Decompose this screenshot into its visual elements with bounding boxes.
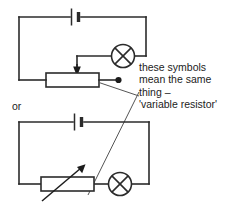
battery-cell-bottom [75, 114, 82, 131]
variable-arrow-head-bottom [77, 164, 86, 173]
caption-line-1: these symbols [139, 61, 230, 73]
caption-line-2: mean the same [139, 73, 230, 85]
leader-to-rheostat [99, 83, 139, 97]
caption-line-4: 'variable resistor' [139, 98, 230, 110]
lamp-top [112, 45, 135, 68]
caption-block: these symbols mean the same thing – 'var… [139, 61, 230, 111]
rheostat-resistor-top [46, 73, 99, 87]
terminal-dot-top [115, 77, 121, 83]
or-label: or [12, 100, 21, 112]
caption-line-3: thing – [139, 86, 230, 98]
battery-cell-top [72, 9, 79, 26]
top-circuit [19, 9, 146, 88]
lamp-bottom [109, 173, 132, 196]
circuit-diagram-figure: or these symbols mean the same thing – '… [0, 0, 230, 211]
bottom-circuit [19, 114, 149, 202]
